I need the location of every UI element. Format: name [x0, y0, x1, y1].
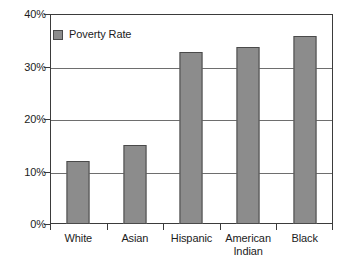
- bar-black[interactable]: [293, 36, 316, 224]
- x-axis-labels: White Asian Hispanic American Indian Bla…: [50, 232, 333, 260]
- y-axis: 40% 30% 20% 10% 0%: [0, 0, 46, 260]
- x-label-asian-line1: Asian: [107, 232, 164, 245]
- legend-swatch-poverty-rate: [53, 30, 63, 40]
- legend: Poverty Rate: [53, 29, 131, 40]
- bar-slot-white: [50, 14, 107, 224]
- bar-slot-hispanic: [163, 14, 220, 224]
- x-label-asian: Asian: [107, 232, 164, 245]
- x-label-black-line1: Black: [276, 232, 333, 245]
- bar-slot-black: [276, 14, 333, 224]
- y-tick-label-20: 20%: [2, 114, 46, 125]
- x-label-hispanic-line1: Hispanic: [161, 232, 222, 245]
- x-label-hispanic: Hispanic: [161, 232, 222, 245]
- bar-asian[interactable]: [123, 145, 146, 224]
- x-label-american-indian-line1: American: [218, 232, 279, 245]
- x-tick-4: [276, 224, 277, 230]
- x-tick-1: [107, 224, 108, 230]
- poverty-rate-bar-chart: 40% 30% 20% 10% 0%: [0, 0, 343, 260]
- x-tick-5: [332, 224, 333, 230]
- x-label-american-indian-line2: Indian: [218, 245, 279, 258]
- y-tick-label-30: 30%: [2, 62, 46, 73]
- bar-hispanic[interactable]: [180, 52, 203, 224]
- bar-slot-asian: [107, 14, 164, 224]
- y-tick-label-40: 40%: [2, 9, 46, 20]
- y-tick-label-0: 0%: [2, 219, 46, 230]
- x-tick-2: [163, 224, 164, 230]
- bar-slot-american-indian: [220, 14, 277, 224]
- bar-white[interactable]: [67, 161, 90, 224]
- x-label-white-line1: White: [50, 232, 107, 245]
- x-tick-3: [220, 224, 221, 230]
- y-tick-label-10: 10%: [2, 167, 46, 178]
- x-label-american-indian: American Indian: [218, 232, 279, 258]
- bar-american-indian[interactable]: [237, 47, 260, 224]
- x-tick-0: [50, 224, 51, 230]
- bars-layer: [50, 14, 333, 224]
- x-label-white: White: [50, 232, 107, 245]
- x-label-black: Black: [276, 232, 333, 245]
- legend-label-poverty-rate: Poverty Rate: [69, 29, 131, 40]
